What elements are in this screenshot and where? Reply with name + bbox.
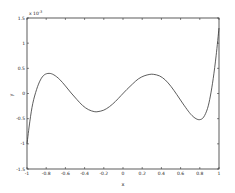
x-tick-label: -0.6: [61, 171, 70, 176]
x-tick-label: -0.4: [80, 171, 89, 176]
y-tick-label: 0: [22, 91, 25, 96]
x-tick-label: 0: [122, 171, 125, 176]
y-axis-label: y: [8, 93, 15, 96]
y-tick-label: -0.5: [16, 116, 25, 121]
y-tick-label: 1: [22, 41, 25, 46]
x-tick-label: 1: [218, 171, 221, 176]
x-tick-label: 0.4: [158, 171, 165, 176]
y-tick-label: 0.5: [18, 66, 25, 71]
x-tick-label: 0.2: [139, 171, 146, 176]
x-tick-label: -0.8: [42, 171, 51, 176]
x-tick-label: 0.8: [196, 171, 203, 176]
y-tick-label: -1: [21, 141, 26, 146]
x-tick-label: 0.6: [177, 171, 184, 176]
x-axis-label: x: [122, 181, 125, 187]
x-tick-label: -0.2: [99, 171, 108, 176]
x-tick-label: -1: [25, 171, 30, 176]
y-tick-label: 1.5: [18, 16, 25, 21]
y-tick-label: -1.5: [16, 167, 25, 172]
line-chart: -1-0.8-0.6-0.4-0.200.20.40.60.81 -1.5-1-…: [0, 0, 235, 193]
figure-background: [0, 0, 235, 193]
